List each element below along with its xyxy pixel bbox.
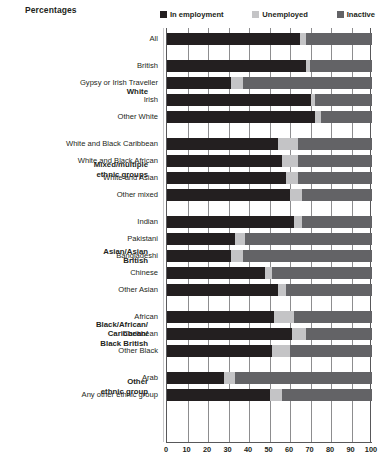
bar-segment-in-employment: [167, 94, 311, 106]
bar-rows: AllBritishGypsy or Irish TravellerIrishO…: [0, 0, 380, 468]
stacked-bar[interactable]: [167, 389, 372, 401]
group-label: Black/African/ Caribbean/ Black British: [96, 320, 148, 349]
bar-segment-in-employment: [167, 60, 306, 72]
bar-segment-unemployed: [231, 250, 243, 262]
group-label: White: [127, 87, 148, 97]
bar-segment-inactive: [243, 250, 372, 262]
bar-row-label: Other White: [117, 111, 158, 123]
bar-row[interactable]: Irish: [0, 94, 380, 106]
stacked-bar[interactable]: [167, 216, 372, 228]
stacked-bar[interactable]: [167, 284, 372, 296]
bar-segment-inactive: [282, 389, 372, 401]
bar-segment-unemployed: [294, 216, 302, 228]
bar-row[interactable]: Arab: [0, 372, 380, 384]
bar-segment-inactive: [245, 233, 372, 245]
bar-segment-inactive: [306, 33, 372, 45]
bar-segment-unemployed: [286, 172, 298, 184]
bar-row[interactable]: Chinese: [0, 267, 380, 279]
bar-row-label: Chinese: [130, 267, 158, 279]
bar-segment-inactive: [321, 111, 372, 123]
stacked-bar[interactable]: [167, 111, 372, 123]
bar-row[interactable]: Indian: [0, 216, 380, 228]
bar-segment-in-employment: [167, 372, 224, 384]
bar-segment-in-employment: [167, 250, 231, 262]
stacked-bar[interactable]: [167, 250, 372, 262]
bar-segment-inactive: [243, 77, 372, 89]
bar-row[interactable]: Any other ethnic group: [0, 389, 380, 401]
bar-segment-inactive: [272, 267, 372, 279]
bar-segment-unemployed: [272, 345, 290, 357]
bar-segment-unemployed: [235, 233, 245, 245]
bar-row[interactable]: Other mixed: [0, 189, 380, 201]
stacked-bar[interactable]: [167, 189, 372, 201]
bar-segment-unemployed: [274, 311, 295, 323]
bar-segment-in-employment: [167, 216, 294, 228]
bar-row-label: Other Asian: [118, 284, 158, 296]
bar-segment-in-employment: [167, 172, 286, 184]
group-label: Other ethnic group: [101, 377, 148, 396]
chart-root: Percentages In employment Unemployed Ina…: [0, 0, 380, 468]
bar-row[interactable]: Gypsy or Irish Traveller: [0, 77, 380, 89]
bar-segment-unemployed: [278, 138, 299, 150]
bar-row[interactable]: African: [0, 311, 380, 323]
bar-segment-inactive: [298, 155, 372, 167]
stacked-bar[interactable]: [167, 77, 372, 89]
bar-segment-unemployed: [290, 189, 302, 201]
bar-segment-unemployed: [278, 284, 286, 296]
bar-row-label: All: [150, 33, 158, 45]
bar-row[interactable]: Other White: [0, 111, 380, 123]
bar-segment-inactive: [302, 216, 372, 228]
bar-segment-inactive: [302, 189, 372, 201]
bar-segment-in-employment: [167, 267, 265, 279]
bar-row[interactable]: White and Black Caribbean: [0, 138, 380, 150]
bar-segment-in-employment: [167, 111, 315, 123]
bar-segment-in-employment: [167, 77, 231, 89]
bar-segment-unemployed: [292, 328, 306, 340]
bar-row[interactable]: All: [0, 33, 380, 45]
bar-segment-in-employment: [167, 284, 278, 296]
bar-segment-unemployed: [224, 372, 234, 384]
stacked-bar[interactable]: [167, 267, 372, 279]
stacked-bar[interactable]: [167, 138, 372, 150]
bar-segment-in-employment: [167, 155, 282, 167]
bar-segment-inactive: [294, 311, 372, 323]
bar-segment-inactive: [298, 172, 372, 184]
stacked-bar[interactable]: [167, 33, 372, 45]
bar-segment-in-employment: [167, 345, 272, 357]
bar-row-label: Pakistani: [127, 233, 158, 245]
bar-row[interactable]: Other Black: [0, 345, 380, 357]
stacked-bar[interactable]: [167, 311, 372, 323]
bar-segment-inactive: [235, 372, 372, 384]
bar-segment-in-employment: [167, 189, 290, 201]
bar-segment-inactive: [286, 284, 372, 296]
bar-row[interactable]: Other Asian: [0, 284, 380, 296]
bar-segment-inactive: [310, 60, 372, 72]
stacked-bar[interactable]: [167, 60, 372, 72]
bar-row[interactable]: Pakistani: [0, 233, 380, 245]
bar-segment-unemployed: [270, 389, 282, 401]
bar-segment-in-employment: [167, 328, 292, 340]
bar-row[interactable]: White and Black African: [0, 155, 380, 167]
bar-segment-in-employment: [167, 311, 274, 323]
bar-segment-in-employment: [167, 138, 278, 150]
stacked-bar[interactable]: [167, 94, 372, 106]
bar-segment-inactive: [290, 345, 372, 357]
stacked-bar[interactable]: [167, 372, 372, 384]
bar-row[interactable]: White and Asian: [0, 172, 380, 184]
stacked-bar[interactable]: [167, 155, 372, 167]
bar-row-label: Indian: [137, 216, 158, 228]
group-label: Asian/Asian British: [103, 247, 148, 266]
bar-row[interactable]: British: [0, 60, 380, 72]
stacked-bar[interactable]: [167, 345, 372, 357]
stacked-bar[interactable]: [167, 233, 372, 245]
bar-segment-in-employment: [167, 389, 270, 401]
stacked-bar[interactable]: [167, 172, 372, 184]
group-label: Mixed/multiple ethnic groups: [94, 160, 148, 179]
bar-row[interactable]: Bangladeshi: [0, 250, 380, 262]
bar-row-label: White and Black Caribbean: [66, 138, 158, 150]
bar-segment-in-employment: [167, 33, 300, 45]
bar-segment-inactive: [306, 328, 372, 340]
stacked-bar[interactable]: [167, 328, 372, 340]
bar-segment-inactive: [298, 138, 372, 150]
bar-row[interactable]: Caribbean: [0, 328, 380, 340]
